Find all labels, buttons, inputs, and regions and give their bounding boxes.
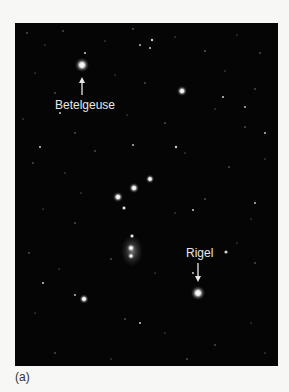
sword-star (127, 244, 135, 252)
alnitak-star (113, 192, 123, 202)
saiph-star (80, 295, 89, 304)
sword-star (129, 233, 134, 238)
figure-caption: (a) (15, 370, 30, 384)
betelgeuse-star (75, 58, 89, 72)
rigel-star (191, 286, 205, 300)
sword-star (128, 253, 135, 260)
star-field (15, 23, 278, 366)
alnilam-star (129, 183, 139, 193)
betelgeuse-label: Betelgeuse (55, 99, 115, 111)
mintaka-star (146, 175, 154, 183)
rigel-label: Rigel (186, 247, 213, 259)
bright-stars (75, 58, 205, 304)
star-field-photo: Betelgeuse Rigel (15, 23, 278, 366)
belt-companion-star (122, 206, 127, 211)
bellatrix-star (177, 86, 187, 96)
faint-stars (22, 28, 265, 359)
